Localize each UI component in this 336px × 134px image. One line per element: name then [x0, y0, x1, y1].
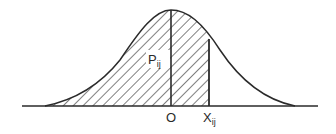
- normal-curve-diagram: Pij O Xij: [0, 0, 336, 134]
- origin-label: O: [166, 110, 176, 125]
- x-ij-label: Xij: [203, 110, 216, 127]
